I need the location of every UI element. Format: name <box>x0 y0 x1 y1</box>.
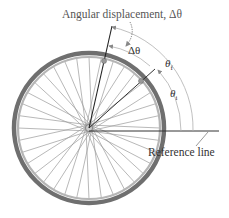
wheel-diagram <box>0 0 229 218</box>
initial-marker <box>139 79 144 84</box>
spoke <box>92 127 125 190</box>
spoke <box>22 131 90 152</box>
reference-label-leader <box>196 132 208 146</box>
spoke <box>86 128 89 199</box>
spoke <box>54 130 92 190</box>
spoke <box>28 93 91 126</box>
spoke <box>77 129 92 198</box>
spoke <box>19 125 88 140</box>
spoke <box>43 126 86 182</box>
spoke <box>92 61 113 129</box>
spoke <box>65 127 86 195</box>
theta-initial-label: θi <box>170 87 177 102</box>
final-marker <box>102 59 107 64</box>
reference-line-label: Reference line <box>148 146 215 158</box>
spoke <box>88 131 151 164</box>
spoke <box>28 125 88 163</box>
spoke <box>43 74 91 126</box>
spoke <box>87 130 135 182</box>
callout-dotted-arrow <box>126 22 132 46</box>
spoke <box>88 104 156 125</box>
spoke <box>35 130 91 173</box>
spoke <box>18 128 89 131</box>
spoke <box>86 67 124 127</box>
angular-displacement-label: Angular displacement, Δθ <box>62 8 182 20</box>
spoke <box>35 82 87 130</box>
spoke <box>54 67 87 130</box>
spoke <box>86 58 101 127</box>
spoke <box>91 74 134 130</box>
delta-theta-label: Δθ <box>128 44 140 56</box>
initial-position-line <box>89 69 155 128</box>
spoke <box>91 93 151 131</box>
theta-final-label: θf <box>165 57 173 72</box>
spoke <box>91 126 143 174</box>
spoke <box>89 125 160 128</box>
theta-final-arc <box>112 27 193 131</box>
